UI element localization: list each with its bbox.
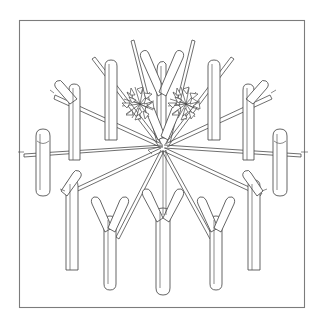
twig-mid-right xyxy=(273,129,287,196)
twig-top-right xyxy=(208,60,220,140)
line-art-canvas xyxy=(0,0,322,326)
twig-top-left xyxy=(105,60,117,140)
twig-mid-left xyxy=(36,129,50,196)
illustration-figure: Radial arrangement of cut twigs and bran… xyxy=(0,0,322,326)
